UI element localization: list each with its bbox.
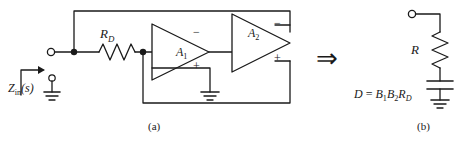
panel-b-schematic bbox=[408, 10, 453, 108]
resistor-RD-label: RD bbox=[100, 27, 114, 40]
panel-a-schematic bbox=[21, 11, 290, 103]
input-impedance-label: Zin(s) bbox=[8, 82, 34, 94]
terminal-node-b bbox=[408, 10, 415, 17]
ground-symbol-b bbox=[431, 100, 449, 108]
implies-arrow-icon: ⇒ bbox=[316, 46, 338, 72]
opamp-A2-minus-sign: − bbox=[274, 17, 281, 29]
ground-symbol-a1 bbox=[201, 92, 219, 100]
capacitor-D bbox=[427, 81, 453, 89]
circuit-svg bbox=[0, 0, 467, 143]
opamp-A2-label: A2 bbox=[248, 27, 259, 39]
opamp-A2-triangle bbox=[232, 14, 290, 72]
panel-b-caption: (b) bbox=[417, 120, 430, 132]
capacitance-equation-label: D = B1B2RD bbox=[354, 88, 412, 100]
wire-terminal-to-resistor-b bbox=[416, 14, 440, 32]
circuit-figure: RD A1 A2 Zin(s) R D = B1B2RD − + − + ⇒ (… bbox=[0, 0, 467, 143]
input-ground-node bbox=[49, 75, 55, 81]
ground-symbol-input bbox=[44, 92, 60, 100]
opamp-A2-plus-sign: + bbox=[274, 52, 281, 64]
input-terminal-node bbox=[47, 48, 54, 55]
panel-a-caption: (a) bbox=[148, 120, 160, 132]
resistor-R bbox=[432, 32, 448, 68]
opamp-A1-plus-sign: + bbox=[193, 60, 200, 72]
resistor-R-label: R bbox=[411, 43, 419, 56]
opamp-A1-label: A1 bbox=[176, 46, 187, 58]
resistor-RD bbox=[99, 44, 135, 60]
opamp-A1-minus-sign: − bbox=[193, 26, 200, 38]
